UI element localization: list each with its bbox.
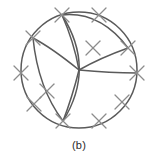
figure-caption: (b) — [0, 138, 158, 152]
cross-mark — [40, 84, 54, 98]
edge-center-to-east — [79, 70, 137, 73]
edge-upper-left-to-bottom — [33, 38, 63, 121]
edge-center-to-bottom — [63, 70, 79, 121]
cross-mark — [27, 97, 41, 111]
graph-drawing — [0, 0, 158, 140]
cross-mark — [86, 41, 100, 55]
cross-mark — [92, 114, 106, 128]
edge-center-to-upper-right — [79, 48, 128, 70]
edge-top-to-center — [62, 15, 79, 70]
figure-container: (b) — [0, 0, 158, 164]
cross-mark — [92, 8, 106, 22]
